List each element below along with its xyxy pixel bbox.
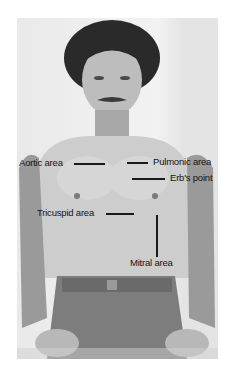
tricuspid-area-pointer	[106, 213, 134, 215]
pulmonic-area-label: Pulmonic area	[153, 157, 211, 167]
aortic-area-pointer	[74, 163, 105, 165]
tricuspid-area-label: Tricuspid area	[37, 208, 94, 218]
mitral-area-label: Mitral area	[130, 258, 173, 268]
patient-figure-illustration	[17, 18, 218, 359]
mitral-area-pointer	[156, 215, 158, 257]
patient-photo	[17, 18, 218, 359]
aortic-area-label: Aortic area	[19, 158, 63, 168]
erbs-point-label: Erb's point	[170, 173, 212, 183]
pulmonic-area-pointer	[127, 162, 148, 164]
erbs-point-pointer	[132, 178, 165, 180]
